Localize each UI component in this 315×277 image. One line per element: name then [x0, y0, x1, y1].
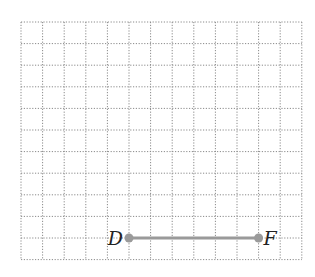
grid-diagram: D F — [0, 0, 315, 277]
label-d: D — [107, 227, 123, 249]
point-f — [254, 234, 263, 243]
grid-lines — [21, 22, 302, 260]
label-f: F — [263, 227, 278, 249]
point-d — [125, 234, 134, 243]
